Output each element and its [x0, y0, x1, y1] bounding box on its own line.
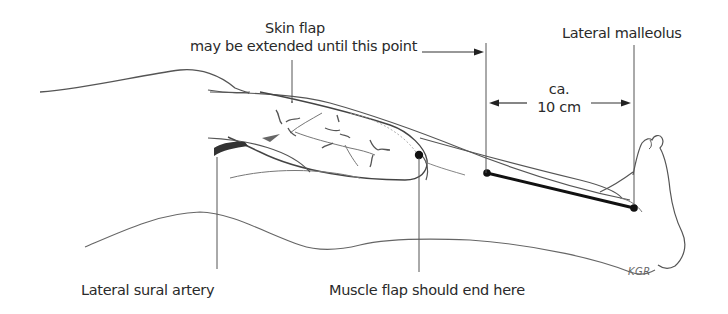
arrow-skin-extension [422, 49, 484, 56]
label-lateral-sural-artery: Lateral sural artery [81, 281, 214, 299]
leg-flap-diagram: Skin flap may be extended until this poi… [0, 0, 728, 314]
artist-signature: KGR [628, 263, 651, 281]
vessel-mark [262, 134, 280, 142]
foot-outline [633, 136, 685, 269]
label-muscle-flap-end: Muscle flap should end here [329, 281, 525, 299]
label-skin-flap-line2: may be extended until this point [190, 37, 400, 55]
label-lateral-malleolus: Lateral malleolus [562, 24, 682, 42]
arrow-distance-right [591, 100, 631, 107]
muscle-flap-end-dot [415, 151, 423, 159]
arrow-distance-left [489, 100, 527, 107]
gastrocnemius-line [208, 138, 310, 172]
skin-flap-outline [228, 92, 427, 180]
leg-front-line [420, 138, 622, 198]
label-distance: ca. 10 cm [527, 80, 591, 116]
label-skin-flap-line1: Skin flap [190, 19, 400, 37]
lower-thin-line [425, 162, 465, 175]
vessel-branches [290, 113, 375, 166]
segment-end-dot [630, 204, 638, 212]
segment-start-dot [483, 169, 491, 177]
leg-lower-contour [85, 212, 655, 274]
calf-inner-line [230, 171, 360, 179]
label-distance-line2: 10 cm [527, 98, 591, 116]
label-skin-flap: Skin flap may be extended until this poi… [190, 19, 400, 55]
artery-mark [214, 142, 248, 156]
ankle-crease [600, 172, 633, 192]
label-distance-line1: ca. [527, 80, 591, 98]
thigh-upper-contour [40, 70, 248, 93]
toe-line [649, 140, 651, 149]
